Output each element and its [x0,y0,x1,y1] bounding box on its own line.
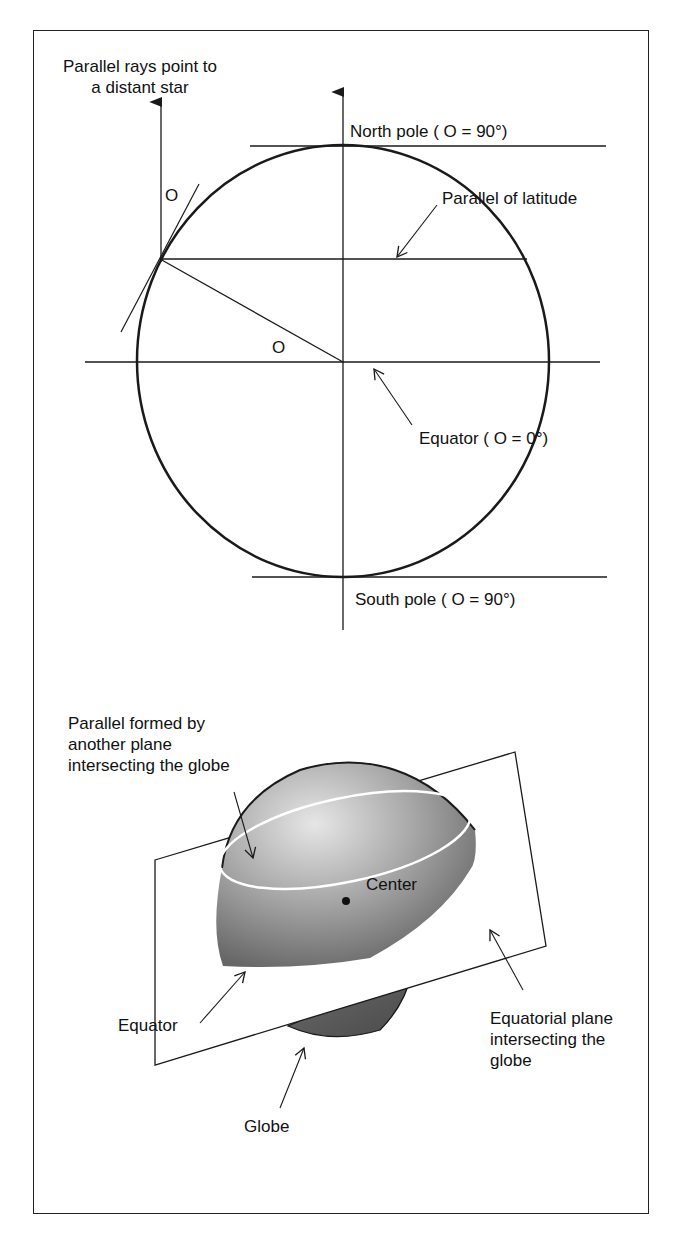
equator-pointer-arrow [374,369,412,425]
tangent-angle-symbol: O [165,185,178,206]
parallel-formed-label: Parallel formed by another plane interse… [68,713,230,776]
equatorial-plane-line2: intersecting the [490,1029,613,1050]
parallel-formed-line2: another plane [68,734,230,755]
south-pole-label: South pole ( O = 90°) [355,589,515,610]
equatorial-plane-line1: Equatorial plane [490,1008,613,1029]
center-dot [342,897,350,905]
center-angle-symbol: O [272,337,285,358]
equator-bottom-label: Equator [118,1015,178,1036]
star-label-line2: a distant star [45,77,235,98]
parallel-formed-line1: Parallel formed by [68,713,230,734]
tangent-line [121,184,199,332]
parallel-pointer-arrow [397,205,437,257]
equator-label: Equator ( O = 0°) [419,428,548,449]
north-pole-label: North pole ( O = 90°) [350,121,508,142]
parallel-formed-line3: intersecting the globe [68,755,230,776]
equatorial-plane-line3: globe [490,1050,613,1071]
center-label: Center [366,874,417,895]
globe-label: Globe [244,1116,289,1137]
star-rays-label: Parallel rays point to a distant star [45,56,235,98]
globe-arrow [280,1048,304,1108]
radius-line [160,259,343,362]
star-label-line1: Parallel rays point to [45,56,235,77]
equatorial-plane-label: Equatorial plane intersecting the globe [490,1008,613,1071]
parallel-of-latitude-label: Parallel of latitude [442,188,577,209]
